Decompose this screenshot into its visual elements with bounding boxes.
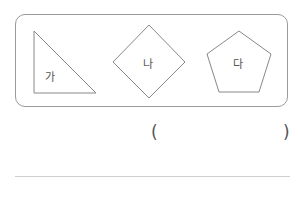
shape-label-ga: 가	[45, 68, 55, 84]
shapes-canvas	[0, 0, 298, 209]
shape-label-da: 다	[233, 55, 243, 71]
answer-close-paren: )	[283, 122, 290, 142]
triangle-shape	[34, 31, 96, 93]
shape-label-na: 나	[143, 55, 153, 71]
answer-open-paren: (	[151, 122, 158, 142]
divider-line	[15, 176, 290, 177]
answer-blank[interactable]	[162, 122, 280, 142]
